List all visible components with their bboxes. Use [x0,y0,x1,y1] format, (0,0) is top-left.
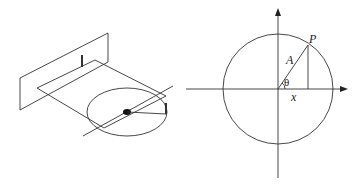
label-point-p: P [308,32,317,46]
horizontal-plane [37,60,166,128]
diagram-canvas: P A θ x [0,0,361,188]
label-x: x [290,90,297,104]
y-axis-arrow-icon [275,8,281,16]
radius-line [278,45,308,89]
vertical-plane [20,33,108,110]
right-panel-reference-circle: P A θ x [186,8,348,178]
label-angle-theta: θ [284,76,289,88]
x-axis-arrow-icon [340,86,348,92]
left-panel-perspective [20,33,173,136]
label-amplitude-a: A [285,53,294,67]
